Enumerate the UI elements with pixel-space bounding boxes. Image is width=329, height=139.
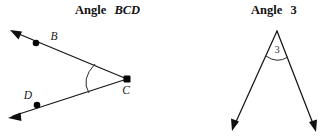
angle-arc-3 [266, 56, 288, 60]
point-dot-d [34, 102, 41, 109]
angle-label-3: 3 [274, 44, 279, 55]
panel-title-angle-3: Angle 3 [251, 3, 297, 17]
arrowhead-right-icon [309, 120, 317, 133]
arrowhead-cd-icon [8, 113, 22, 122]
arrowhead-cb-icon [10, 30, 22, 40]
geometry-figure: Angle BCD B D C Angle 3 [0, 0, 329, 139]
figure-canvas: Angle BCD B D C Angle 3 [0, 0, 329, 139]
point-label-d: D [23, 89, 33, 101]
angle-arc-bcd [86, 64, 95, 93]
point-dot-b [33, 40, 40, 47]
point-label-b: B [50, 30, 57, 42]
arrowhead-left-icon [231, 119, 239, 132]
panel-angle-3: Angle 3 3 [231, 3, 317, 132]
ray-left [235, 31, 277, 124]
ray-cb [14, 32, 127, 79]
title-prefix-text: Angle [75, 3, 107, 17]
panel-title-angle-bcd: Angle BCD [75, 3, 140, 17]
vertex-label-c: C [122, 84, 130, 96]
title-prefix-text-2: Angle [251, 3, 283, 17]
title-name-text: BCD [113, 3, 140, 17]
vertex-dot-c [124, 76, 131, 83]
panel-angle-bcd: Angle BCD B D C [8, 3, 140, 121]
title-name-text-2: 3 [290, 3, 296, 17]
ray-right [277, 31, 314, 125]
